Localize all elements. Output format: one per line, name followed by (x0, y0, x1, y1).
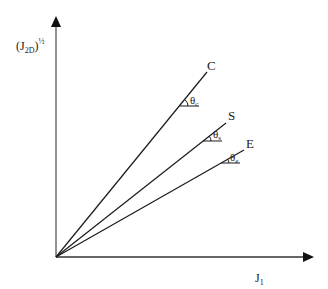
angle-c-label: θc (190, 94, 198, 108)
angle-s-arc-icon (209, 136, 211, 141)
failure-envelope-diagram: (J2D)½ J1 C θc S θs (0, 0, 328, 289)
line-s: S θs (56, 108, 235, 257)
y-axis-label: (J2D)½ (16, 37, 44, 55)
x-axis (56, 252, 314, 262)
angle-e-arc-icon (228, 159, 229, 163)
line-e-label: E (246, 136, 254, 151)
line-c: C θc (56, 58, 216, 257)
angle-c-arc-icon (185, 100, 188, 106)
x-axis-label: J1 (255, 271, 264, 287)
line-e: E θe (56, 136, 254, 257)
angle-e-label: θe (230, 151, 238, 165)
y-axis (51, 16, 61, 257)
x-axis-arrowhead-icon (303, 252, 314, 262)
line-s-label: S (228, 108, 235, 123)
y-axis-arrowhead-icon (51, 16, 61, 27)
angle-s-label: θs (213, 128, 221, 142)
line-c-label: C (207, 58, 216, 73)
